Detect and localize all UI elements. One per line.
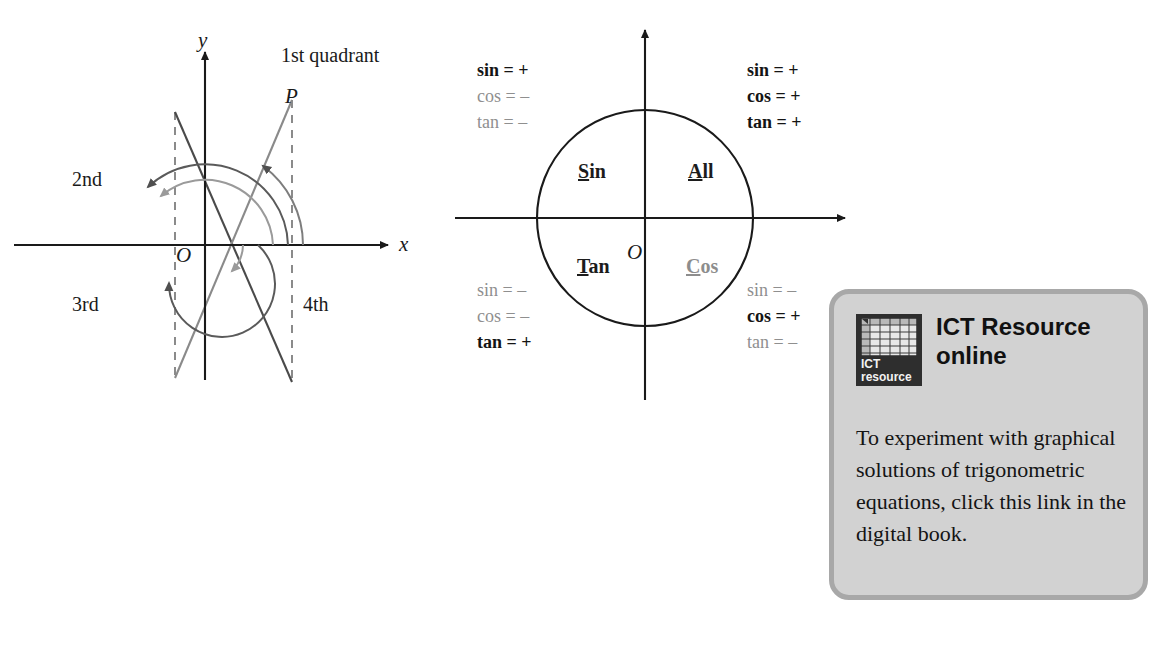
sign-row-sin: sin = + — [747, 57, 802, 83]
ict-icon-caption-line2: resource — [861, 371, 912, 384]
cast-origin-label: O — [627, 240, 642, 265]
cast-cos-initial: C — [686, 255, 700, 277]
rotation-arc-4 — [148, 164, 288, 245]
sign-block-quadrant2: sin = +cos = –tan = – — [477, 57, 529, 135]
ict-spreadsheet-icon: ICT resource — [856, 314, 922, 386]
quadrant-label-third: 3rd — [72, 293, 99, 316]
sign-row-sin: sin = – — [747, 277, 801, 303]
cast-word-tan: Tan — [577, 255, 610, 278]
sign-row-tan: tan = – — [477, 109, 529, 135]
cast-all-rest: ll — [702, 160, 713, 182]
ict-resource-panel[interactable]: ICT resource ICT Resource online To expe… — [829, 289, 1148, 600]
cast-word-sin: Sin — [578, 160, 606, 183]
rotation-arc-5 — [263, 166, 303, 245]
cast-sin-rest: in — [589, 160, 606, 182]
figure-canvas: y x O P 1st quadrant 2nd 3rd 4th O Sin A… — [0, 0, 1160, 651]
sign-row-cos: cos = – — [477, 83, 529, 109]
sign-row-tan: tan = + — [747, 109, 802, 135]
cast-all-initial: A — [688, 160, 702, 182]
cast-sin-initial: S — [578, 160, 589, 182]
sign-row-tan: tan = – — [747, 329, 801, 355]
cast-tan-initial: T — [577, 255, 589, 277]
sign-row-sin: sin = – — [477, 277, 532, 303]
cast-tan-rest: an — [589, 255, 610, 277]
quadrant-label-first: 1st quadrant — [281, 44, 379, 67]
sign-block-quadrant4: sin = –cos = +tan = – — [747, 277, 801, 355]
cast-word-all: All — [688, 160, 714, 183]
sign-row-tan: tan = + — [477, 329, 532, 355]
sign-block-quadrant1: sin = +cos = +tan = + — [747, 57, 802, 135]
point-p-label: P — [285, 84, 298, 109]
ict-panel-header: ICT resource ICT Resource online — [856, 312, 1136, 412]
x-axis-label: x — [399, 232, 408, 257]
sign-row-cos: cos = + — [747, 83, 802, 109]
origin-label: O — [176, 243, 191, 268]
sign-row-cos: cos = + — [747, 303, 801, 329]
quadrant-label-fourth: 4th — [303, 293, 329, 316]
rotation-arc-3 — [161, 180, 273, 245]
spreadsheet-grid-icon — [861, 318, 917, 356]
ict-panel-body-text: To experiment with graphical solutions o… — [856, 422, 1142, 550]
cast-cos-rest: os — [700, 255, 718, 277]
quadrant-label-second: 2nd — [72, 168, 102, 191]
cast-word-cos: Cos — [686, 255, 718, 278]
sign-row-cos: cos = – — [477, 303, 532, 329]
y-axis-label: y — [198, 28, 207, 53]
terminal-line-dark — [175, 112, 292, 382]
sign-block-quadrant3: sin = –cos = –tan = + — [477, 277, 532, 355]
sign-row-sin: sin = + — [477, 57, 529, 83]
ict-panel-title: ICT Resource online — [936, 312, 1136, 370]
